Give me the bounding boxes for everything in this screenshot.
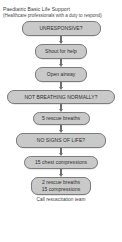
call-resuscitation-team-note: Call resuscitation team bbox=[37, 197, 86, 203]
chart-heading: Paediatric Basic Life Support (Healthcar… bbox=[0, 0, 122, 19]
flow-node-not-breathing-normally-label: NOT BREATHING NORMALLY? bbox=[24, 94, 97, 100]
flow-node-open-airway: Open airway bbox=[35, 67, 87, 82]
flow-arrow-1 bbox=[58, 36, 65, 44]
flow-arrow-5 bbox=[58, 125, 65, 133]
page-title: Paediatric Basic Life Support bbox=[3, 6, 120, 13]
flow-node-fifteen-chest-compressions-label: 15 chest compressions bbox=[35, 159, 87, 165]
flow-node-open-airway-label: Open airway bbox=[47, 71, 76, 77]
page-subtitle: (Healthcare professionals with a duty to… bbox=[3, 13, 120, 19]
arrow-head-down-icon bbox=[59, 64, 63, 67]
flow-arrow-7 bbox=[58, 169, 65, 177]
arrow-head-down-icon bbox=[59, 153, 63, 156]
arrow-head-down-icon bbox=[59, 87, 63, 90]
flow-node-five-rescue-breaths: 5 rescue breaths bbox=[33, 112, 90, 125]
flow-node-five-rescue-breaths-label: 5 rescue breaths bbox=[42, 115, 80, 121]
flow-node-shout-for-help: Shout for help bbox=[35, 44, 87, 59]
paediatric-bls-flowchart: Paediatric Basic Life Support (Healthcar… bbox=[0, 0, 122, 242]
flow-node-cycle-label-line2: 15 compressions bbox=[42, 186, 81, 192]
flow-node-cycle: 2 rescue breaths 15 compressions bbox=[31, 177, 91, 195]
flow-node-unresponsive: UNRESPONSIVE? bbox=[22, 21, 101, 36]
flow-node-unresponsive-label: UNRESPONSIVE? bbox=[39, 25, 82, 31]
flow-node-no-signs-of-life-label: NO SIGNS OF LIFE? bbox=[37, 137, 85, 143]
arrow-head-down-icon bbox=[59, 174, 63, 177]
flow-arrow-3 bbox=[58, 82, 65, 90]
flow-node-no-signs-of-life: NO SIGNS OF LIFE? bbox=[16, 133, 106, 148]
flowchart-body: UNRESPONSIVE? Shout for help Open airway… bbox=[0, 21, 122, 203]
flow-node-fifteen-chest-compressions: 15 chest compressions bbox=[24, 156, 98, 169]
arrow-head-down-icon bbox=[59, 109, 63, 112]
flow-arrow-4 bbox=[58, 104, 65, 112]
flow-node-not-breathing-normally: NOT BREATHING NORMALLY? bbox=[7, 90, 115, 104]
flow-arrow-6 bbox=[58, 148, 65, 156]
arrow-head-down-icon bbox=[59, 130, 63, 133]
arrow-head-down-icon bbox=[59, 41, 63, 44]
flow-node-shout-for-help-label: Shout for help bbox=[45, 48, 77, 54]
flow-arrow-2 bbox=[58, 59, 65, 67]
